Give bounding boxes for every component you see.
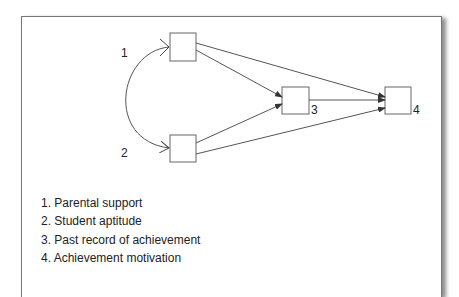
node-box-1	[170, 33, 196, 61]
legend-item: 2. Student aptitude	[41, 212, 200, 230]
legend-item: 3. Past record of achievement	[41, 231, 200, 249]
node-label-3: 3	[311, 104, 318, 116]
correlation-arrow-1-2	[126, 47, 169, 148]
node-label-2: 2	[121, 147, 128, 159]
edge-2-to-3	[196, 104, 282, 143]
legend: 1. Parental support 2. Student aptitude …	[41, 194, 200, 267]
node-box-2	[170, 135, 196, 162]
node-label-4: 4	[413, 104, 420, 116]
node-box-4	[385, 87, 411, 114]
legend-item: 1. Parental support	[41, 194, 200, 212]
node-label-1: 1	[121, 47, 128, 59]
legend-item: 4. Achievement motivation	[41, 249, 200, 267]
node-box-3	[282, 87, 309, 114]
edge-2-to-4	[196, 108, 385, 154]
edge-1-to-3	[196, 50, 282, 97]
